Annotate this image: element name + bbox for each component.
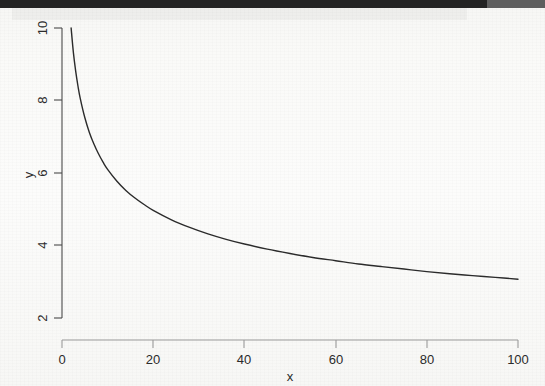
y-tick-label-4: 4 <box>35 241 50 248</box>
data-series-line <box>71 28 518 279</box>
x-axis-title: x <box>287 369 294 384</box>
x-tick-label-0: 0 <box>58 352 65 367</box>
plot-area: 10 8 6 4 2 y 0 20 40 60 80 100 x <box>0 0 545 386</box>
y-tick-label-8: 8 <box>35 96 50 103</box>
y-tick-label-10: 10 <box>35 21 50 35</box>
x-tick-label-60: 60 <box>329 352 343 367</box>
x-tick-label-20: 20 <box>146 352 160 367</box>
y-axis-title: y <box>21 171 36 178</box>
chart-page: 10 8 6 4 2 y 0 20 40 60 80 100 x <box>0 0 545 386</box>
x-tick-label-100: 100 <box>507 352 529 367</box>
y-axis-ticks <box>54 28 62 318</box>
y-tick-label-2: 2 <box>35 314 50 321</box>
x-tick-label-80: 80 <box>420 352 434 367</box>
x-tick-label-40: 40 <box>237 352 251 367</box>
x-axis-ticks <box>62 340 518 348</box>
y-tick-label-6: 6 <box>35 169 50 176</box>
